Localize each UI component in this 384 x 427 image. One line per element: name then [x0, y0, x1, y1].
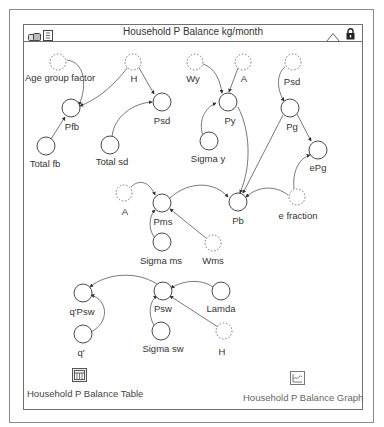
node-q-prime	[74, 325, 92, 343]
node-h-bottom	[216, 323, 232, 339]
node-pms	[153, 194, 171, 212]
label-q-psw[interactable]: q'Psw	[69, 306, 94, 317]
node-psd-right	[285, 54, 301, 70]
label-total-sd[interactable]: Total sd	[96, 156, 129, 167]
link-sigmay-py	[201, 103, 216, 136]
node-q-psw	[74, 284, 92, 302]
label-total-fb[interactable]: Total fb	[30, 158, 61, 169]
label-py[interactable]: Py	[224, 115, 235, 126]
label-pg[interactable]: Pg	[286, 121, 298, 132]
node-lamda	[212, 282, 230, 300]
label-wms[interactable]: Wms	[202, 255, 224, 266]
link-py-pb	[238, 107, 248, 193]
node-sigma-y	[200, 132, 218, 150]
label-age-group-factor[interactable]: Age group factor	[25, 72, 95, 83]
label-e-fraction[interactable]: e fraction	[278, 210, 317, 221]
node-psw	[154, 282, 172, 300]
label-pb[interactable]: Pb	[232, 215, 244, 226]
node-a-mid	[116, 185, 132, 201]
node-age-group-factor	[50, 54, 66, 70]
label-psd-left[interactable]: Psd	[154, 115, 170, 126]
link-totalsd-psd	[112, 102, 152, 137]
link-psw-qpsw	[90, 275, 157, 287]
link-pg-pb	[243, 115, 283, 193]
link-wms-pms	[170, 209, 206, 238]
node-wms	[205, 235, 221, 251]
node-pg	[281, 99, 299, 117]
label-epg[interactable]: ePg	[310, 162, 327, 173]
link-a-py	[229, 68, 238, 92]
node-pfb	[62, 99, 80, 117]
node-psd-left	[153, 93, 171, 111]
node-total-sd	[101, 136, 119, 154]
link-wy-py	[203, 64, 222, 93]
node-e-fraction	[289, 189, 305, 205]
label-pms[interactable]: Pms	[154, 216, 173, 227]
node-sigma-sw	[152, 322, 170, 340]
graph-icon[interactable]	[290, 371, 305, 389]
label-sigma-y[interactable]: Sigma y	[191, 153, 225, 164]
label-wy[interactable]: Wy	[186, 73, 200, 84]
graph-label[interactable]: Household P Balance Graph	[243, 392, 363, 403]
node-pb	[229, 193, 247, 211]
node-a-top	[235, 54, 251, 70]
link-lamda-psw	[171, 281, 213, 288]
link-efraction-pb	[246, 188, 288, 197]
link-totalfb-pfb	[51, 117, 65, 139]
label-psw[interactable]: Psw	[154, 303, 172, 314]
node-wy	[187, 54, 203, 70]
link-h-psd	[138, 66, 154, 94]
label-pfb[interactable]: Pfb	[65, 121, 79, 132]
table-icon[interactable]	[72, 368, 87, 386]
label-h-top[interactable]: H	[131, 73, 138, 84]
node-total-fb	[37, 137, 55, 155]
stock-flow-diagram	[0, 0, 384, 427]
table-label[interactable]: Household P Balance Table	[27, 388, 143, 399]
label-a-top[interactable]: A	[241, 73, 247, 84]
label-q-prime[interactable]: q'	[77, 347, 84, 358]
link-efraction-epg	[294, 155, 310, 189]
node-h-top	[125, 54, 141, 70]
node-sigma-ms	[153, 233, 171, 251]
label-sigma-ms[interactable]: Sigma ms	[140, 255, 182, 266]
label-sigma-sw[interactable]: Sigma sw	[142, 343, 183, 354]
node-py	[219, 93, 237, 111]
node-epg	[309, 141, 327, 159]
label-lamda[interactable]: Lamda	[206, 303, 235, 314]
link-pg-epg	[297, 114, 311, 141]
label-h-bottom[interactable]: H	[219, 346, 226, 357]
label-a-mid[interactable]: A	[122, 206, 128, 217]
link-pms-pb	[170, 185, 228, 198]
link-amid-pms	[131, 182, 155, 195]
label-psd-right[interactable]: Psd	[284, 76, 300, 87]
